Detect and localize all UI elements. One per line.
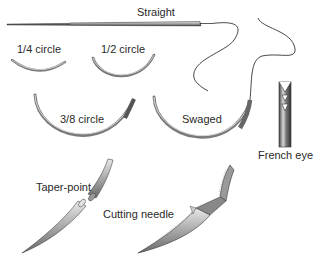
label-taper-point: Taper-point xyxy=(36,182,91,193)
taper-point-needle-graphic xyxy=(22,159,113,253)
label-quarter-circle: 1/4 circle xyxy=(17,44,61,55)
suture-thread xyxy=(194,23,238,91)
label-cutting-needle: Cutting needle xyxy=(103,209,174,220)
label-three-eighths-circle: 3/8 circle xyxy=(60,114,104,125)
needle-types-diagram: Straight 1/4 circle 1/2 circle 3/8 circl… xyxy=(0,0,324,259)
label-french-eye: French eye xyxy=(258,150,313,161)
french-eye-needle-graphic xyxy=(279,82,291,147)
label-straight: Straight xyxy=(137,7,175,18)
half-circle-needle-graphic xyxy=(93,55,154,76)
label-half-circle: 1/2 circle xyxy=(101,44,145,55)
straight-needle-graphic xyxy=(7,22,212,27)
label-swaged: Swaged xyxy=(182,114,222,125)
